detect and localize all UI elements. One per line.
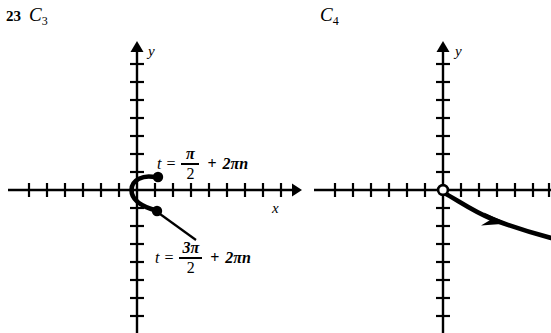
curve-label-letter: C bbox=[29, 4, 42, 25]
eqn-variable: t bbox=[157, 156, 161, 172]
y-axis-label-right: y bbox=[455, 44, 462, 59]
eqn-numerator: π bbox=[183, 146, 198, 163]
y-axis-arrowhead-right bbox=[437, 41, 450, 52]
leader-line-lower bbox=[160, 214, 196, 240]
endpoint-open-circle-origin bbox=[438, 185, 448, 195]
eqn-plus: + bbox=[207, 156, 216, 172]
panel-right-axes bbox=[314, 41, 551, 333]
parameter-annotation-upper: t = π 2 + 2πn bbox=[157, 146, 248, 182]
curve-label-c3: C3 bbox=[29, 4, 48, 25]
y-axis-label-left: y bbox=[148, 44, 155, 59]
figure-canvas: 23C3 C4 y x y t = π 2 + 2πn t = 3π 2 + 2… bbox=[0, 0, 551, 333]
x-axis-label-left: x bbox=[272, 201, 279, 216]
eqn-variable: t bbox=[155, 250, 159, 266]
eqn-fraction: π 2 bbox=[181, 146, 199, 182]
eqn-plus: + bbox=[210, 250, 219, 266]
eqn-numerator: 3π bbox=[179, 240, 202, 257]
eqn-term: 2πn bbox=[223, 156, 249, 172]
eqn-term: 2πn bbox=[225, 250, 251, 266]
eqn-equals: = bbox=[166, 156, 175, 172]
curve-label-subscript: 3 bbox=[42, 14, 48, 28]
problem-number: 23 bbox=[6, 8, 21, 24]
graph-svg bbox=[0, 0, 551, 333]
curve-label-subscript: 4 bbox=[333, 14, 339, 28]
problem-header-left: 23C3 bbox=[6, 5, 48, 24]
parameter-annotation-lower: t = 3π 2 + 2πn bbox=[155, 240, 251, 276]
eqn-fraction: 3π 2 bbox=[179, 240, 202, 276]
y-axis-arrowhead-left bbox=[131, 41, 144, 52]
x-axis-arrowhead-left bbox=[292, 184, 302, 197]
panel-left-axes bbox=[8, 41, 302, 333]
curve-label-c4: C4 bbox=[320, 4, 339, 25]
eqn-denominator: 2 bbox=[183, 165, 197, 182]
curve-label-letter: C bbox=[320, 4, 333, 25]
eqn-equals: = bbox=[164, 250, 173, 266]
problem-header-right: C4 bbox=[320, 5, 339, 24]
eqn-denominator: 2 bbox=[184, 259, 198, 276]
